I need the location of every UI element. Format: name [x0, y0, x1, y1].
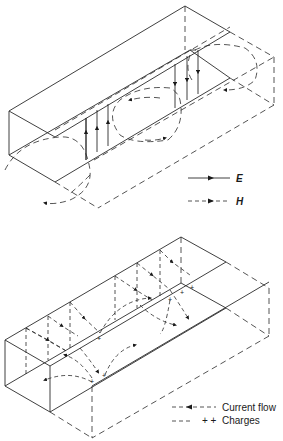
top-waveguide: [5, 6, 274, 208]
arrow-icon: [208, 199, 214, 204]
legend-current-flow-label: Current flow: [222, 402, 277, 413]
arrow-icon: [186, 405, 192, 410]
charge-mark: +: [97, 335, 101, 342]
legend-h-label: H: [236, 196, 244, 207]
top-legend: E H: [188, 173, 244, 207]
legend-charges-prefix: + +: [202, 415, 217, 426]
legend-charges-label: Charges: [222, 415, 260, 426]
charge-mark: +: [90, 378, 94, 385]
waveguide-field-diagram: E H: [0, 0, 283, 441]
charge-mark: +: [102, 372, 106, 379]
bottom-legend: Current flow + + Charges: [172, 402, 277, 426]
charge-mark: +: [168, 296, 172, 303]
legend-e-label: E: [236, 173, 243, 184]
charge-mark: +: [190, 284, 194, 291]
charge-mark: +: [180, 289, 184, 296]
arrow-icon: [208, 176, 214, 181]
